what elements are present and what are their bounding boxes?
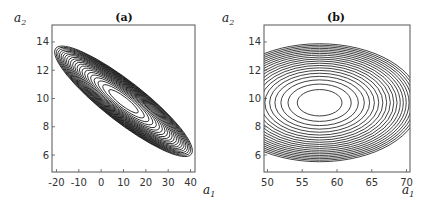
- contour-line: [260, 68, 378, 138]
- panel-a-xlabel: a1: [203, 183, 215, 199]
- x-tick-label: 55: [296, 177, 309, 188]
- panel-a-contours: [43, 33, 203, 170]
- contour-line: [239, 55, 400, 150]
- contour-line: [270, 73, 370, 132]
- contour-line: [297, 90, 342, 116]
- x-tick-label: 40: [184, 177, 197, 188]
- x-tick-label: 50: [261, 177, 274, 188]
- contour-line: [55, 43, 192, 160]
- panel-a-ylabel: a2: [14, 11, 26, 27]
- y-tick-label: 8: [255, 121, 261, 132]
- contour-line: [245, 59, 393, 147]
- y-tick-label: 14: [36, 36, 49, 47]
- x-tick-label: -20: [48, 177, 64, 188]
- x-tick-label: 60: [331, 177, 344, 188]
- panel-b-ylabel: a2: [222, 11, 234, 27]
- y-tick-label: 6: [255, 150, 261, 161]
- panel-b-title: (b): [327, 11, 345, 24]
- x-tick-label: 20: [139, 177, 152, 188]
- x-tick-label: 65: [365, 177, 378, 188]
- contour-line: [47, 36, 200, 167]
- contour-line: [60, 47, 188, 157]
- contour-line: [70, 55, 178, 148]
- contour-line: [49, 37, 198, 165]
- x-tick-label: 70: [400, 177, 413, 188]
- contour-line: [43, 33, 203, 170]
- x-tick-label: 0: [98, 177, 104, 188]
- x-tick-label: 30: [162, 177, 175, 188]
- contour-line: [57, 45, 189, 158]
- y-tick-label: 10: [248, 93, 261, 104]
- panel-a-title: (a): [115, 11, 133, 24]
- y-tick-label: 10: [36, 93, 49, 104]
- contour-line: [253, 63, 387, 142]
- contour-line: [67, 53, 180, 150]
- x-tick-label: 10: [117, 177, 130, 188]
- y-tick-label: 12: [248, 65, 261, 76]
- contour-line: [51, 39, 196, 163]
- y-tick-label: 6: [43, 150, 49, 161]
- figure: (a) a2 a1 -20-1001020304068101214 (b) a2…: [0, 0, 431, 210]
- panel-b: (b) a2 a1 505560657068101214: [220, 11, 420, 199]
- panel-a: (a) a2 a1 -20-1001020304068101214: [14, 11, 215, 199]
- y-tick-label: 12: [36, 65, 49, 76]
- y-tick-label: 8: [43, 121, 49, 132]
- contour-line: [281, 80, 358, 126]
- y-tick-label: 14: [248, 36, 261, 47]
- x-tick-label: -10: [71, 177, 87, 188]
